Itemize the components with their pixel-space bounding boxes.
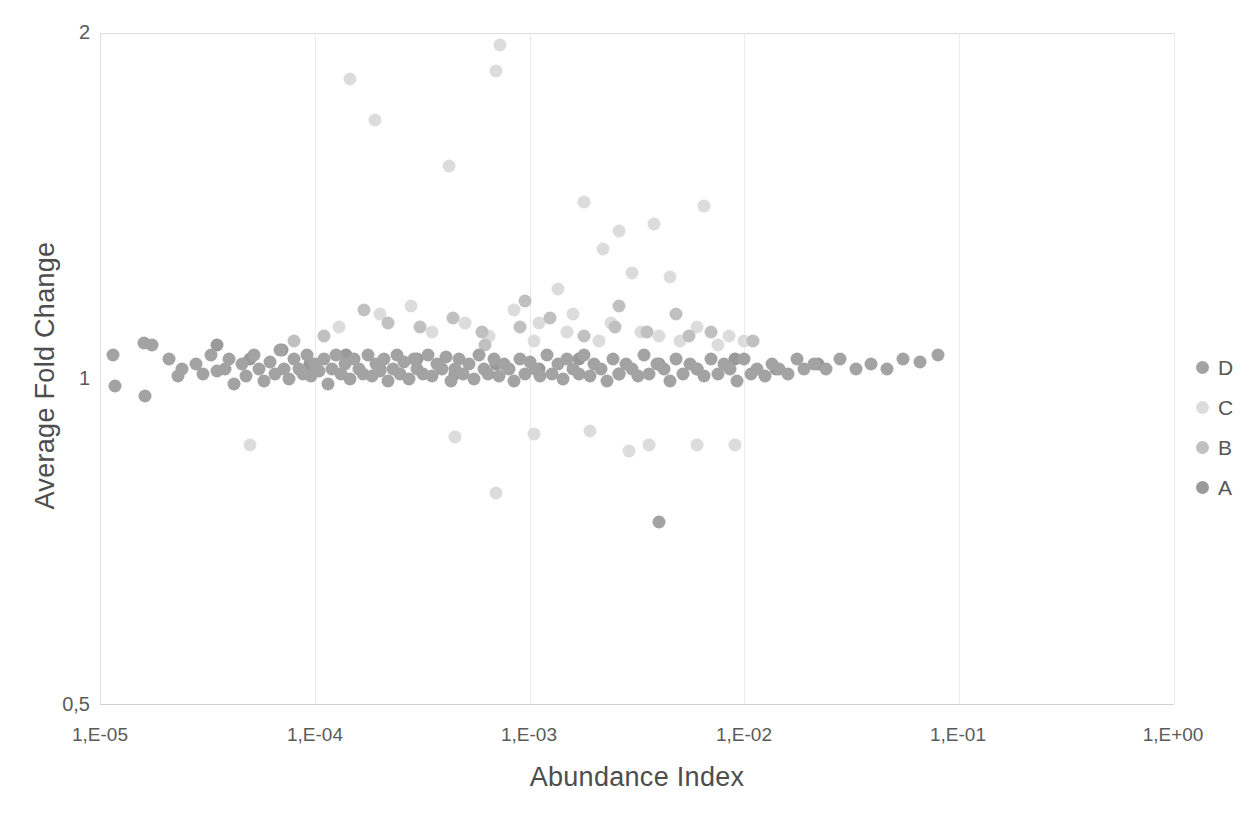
data-point	[914, 355, 927, 368]
data-point	[227, 377, 240, 390]
data-point	[490, 486, 503, 499]
data-point	[240, 370, 253, 383]
plot-area	[100, 33, 1174, 705]
plot-top-border	[100, 33, 1174, 34]
data-point	[612, 299, 625, 312]
data-point	[597, 243, 610, 256]
data-point	[747, 334, 760, 347]
legend-item-b[interactable]: B	[1196, 430, 1256, 465]
data-point	[447, 312, 460, 325]
data-point	[738, 353, 751, 366]
x-axis-title: Abundance Index	[437, 762, 837, 793]
data-point	[690, 438, 703, 451]
data-point	[146, 339, 159, 352]
data-point	[540, 348, 553, 361]
scatter-chart: 2 1 0,5 1,E-05 1,E-04 1,E-03 1,E-02 1,E-…	[0, 0, 1257, 835]
legend-marker-icon	[1196, 361, 1209, 374]
data-point	[865, 358, 878, 371]
data-point	[652, 515, 665, 528]
x-axis-line	[100, 704, 1174, 705]
data-point	[724, 363, 737, 376]
data-point	[595, 363, 608, 376]
data-point	[609, 321, 622, 334]
data-point	[759, 370, 772, 383]
data-point	[518, 295, 531, 308]
data-point	[171, 370, 184, 383]
data-point	[404, 299, 417, 312]
data-point	[705, 353, 718, 366]
data-point	[236, 358, 249, 371]
data-point	[657, 363, 670, 376]
y-axis-line	[100, 33, 101, 705]
legend-marker-icon	[1196, 481, 1209, 494]
data-point	[880, 363, 893, 376]
x-tick-label-3: 1,E-02	[674, 725, 814, 745]
data-point	[382, 316, 395, 329]
data-point	[442, 160, 455, 173]
data-point	[333, 321, 346, 334]
data-point	[382, 375, 395, 388]
y-tick-label-bottom: 0,5	[38, 694, 90, 714]
data-point	[557, 372, 570, 385]
data-point	[669, 308, 682, 321]
y-tick-label-top: 2	[50, 22, 90, 42]
legend-item-d[interactable]: D	[1196, 350, 1256, 385]
data-point	[513, 321, 526, 334]
legend-item-c[interactable]: C	[1196, 390, 1256, 425]
data-point	[682, 330, 695, 343]
data-point	[698, 370, 711, 383]
data-point	[932, 348, 945, 361]
data-point	[578, 196, 591, 209]
data-point	[223, 353, 236, 366]
data-point	[567, 308, 580, 321]
legend-label: B	[1218, 437, 1232, 458]
data-point	[711, 339, 724, 352]
data-point	[343, 72, 356, 85]
data-point	[163, 353, 176, 366]
data-point	[698, 199, 711, 212]
data-point	[414, 321, 427, 334]
data-point	[612, 224, 625, 237]
data-point	[705, 325, 718, 338]
x-tick-label-2: 1,E-03	[459, 725, 599, 745]
data-point	[435, 363, 448, 376]
data-point	[313, 365, 326, 378]
data-point	[730, 375, 743, 388]
data-point	[205, 348, 218, 361]
y-axis-title: Average Fold Change	[30, 116, 61, 636]
data-point	[196, 367, 209, 380]
legend-label: C	[1218, 397, 1233, 418]
data-point	[820, 363, 833, 376]
data-point	[288, 334, 301, 347]
data-point	[321, 377, 334, 390]
data-point	[244, 438, 257, 451]
data-point	[139, 390, 152, 403]
data-point	[640, 325, 653, 338]
data-point	[494, 39, 507, 52]
data-point	[475, 325, 488, 338]
data-point	[652, 330, 665, 343]
legend-label: D	[1218, 357, 1233, 378]
data-point	[807, 358, 820, 371]
data-point	[622, 444, 635, 457]
data-point	[444, 375, 457, 388]
data-point	[578, 330, 591, 343]
data-point	[490, 64, 503, 77]
x-tick-label-5: 1,E+00	[1103, 725, 1243, 745]
data-point	[107, 348, 120, 361]
x-tick-label-0: 1,E-05	[30, 725, 170, 745]
legend-item-a[interactable]: A	[1196, 470, 1256, 505]
gridline-vertical	[959, 33, 960, 704]
data-point	[544, 312, 557, 325]
legend-label: A	[1218, 477, 1232, 498]
data-point	[109, 380, 122, 393]
data-point	[592, 334, 605, 347]
data-point	[472, 348, 485, 361]
data-point	[583, 425, 596, 438]
x-tick-label-4: 1,E-01	[888, 725, 1028, 745]
data-point	[648, 217, 661, 230]
data-point	[264, 355, 277, 368]
x-tick-label-1: 1,E-04	[245, 725, 385, 745]
data-point	[782, 367, 795, 380]
data-point	[728, 438, 741, 451]
